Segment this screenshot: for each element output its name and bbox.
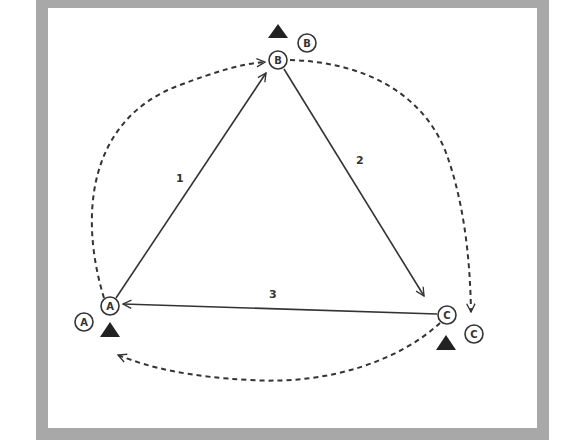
cone-a-icon bbox=[100, 322, 120, 337]
waiting-a-label: A bbox=[80, 317, 88, 328]
player-a-label: A bbox=[106, 301, 114, 312]
pass-1-label: 1 bbox=[176, 172, 184, 185]
pass-1-arrow bbox=[116, 73, 266, 298]
waiting-c-label: C bbox=[470, 329, 477, 340]
pass-3-label: 3 bbox=[269, 288, 277, 301]
pass-3-arrow bbox=[123, 304, 437, 314]
run-c-to-a-path bbox=[118, 323, 440, 381]
run-b-to-c-path bbox=[290, 60, 471, 312]
waiting-b-label: B bbox=[303, 38, 311, 49]
player-c-label: C bbox=[443, 310, 450, 321]
cone-c-icon bbox=[436, 335, 456, 350]
drill-diagram: 1 2 3 B B A A C C bbox=[0, 0, 562, 445]
cone-b-icon bbox=[268, 24, 288, 38]
player-b-label: B bbox=[274, 55, 282, 66]
pass-2-arrow bbox=[284, 69, 424, 296]
pass-2-label: 2 bbox=[356, 154, 364, 167]
